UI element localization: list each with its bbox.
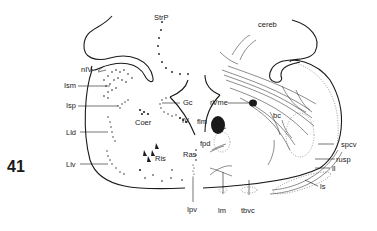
label-ris: Ris xyxy=(155,155,166,163)
label-bc: bc xyxy=(273,112,281,120)
label-tbvc: tbvc xyxy=(241,207,255,215)
label-cereb: cereb xyxy=(258,21,277,29)
label-rvme: rVme xyxy=(210,99,228,107)
label-ism: Ism xyxy=(64,82,76,90)
label-strp: StrP xyxy=(154,14,169,22)
label-isp: Isp xyxy=(66,102,76,110)
label-flm: flm xyxy=(197,118,207,126)
brainstem-section-diagram: 41 StrP cereb nIV Ism Isp Gc rVme Coer I… xyxy=(0,0,377,231)
label-spcv: spcv xyxy=(341,141,356,149)
label-ras: Ras xyxy=(183,151,196,159)
label-rusp: rusp xyxy=(336,156,351,164)
label-iv: IV xyxy=(182,117,189,125)
label-fpd: fpd xyxy=(200,140,210,148)
label-niv: nIV xyxy=(81,66,92,74)
label-lld: Lld xyxy=(66,129,76,137)
label-ls: ls xyxy=(320,183,325,191)
label-ll: ll xyxy=(332,165,335,173)
label-lm: lm xyxy=(218,207,226,215)
label-gc: Gc xyxy=(183,99,193,107)
label-llv: Llv xyxy=(66,161,76,169)
figure-number: 41 xyxy=(7,158,25,176)
label-coer: Coer xyxy=(135,119,151,127)
label-ipv: Ipv xyxy=(187,206,197,214)
